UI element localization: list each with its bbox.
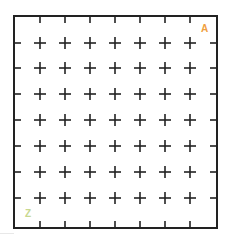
corner-label-a: A <box>201 24 208 34</box>
grid-board <box>0 0 227 239</box>
divider-line <box>0 233 14 234</box>
corner-label-z: Z <box>25 209 31 219</box>
